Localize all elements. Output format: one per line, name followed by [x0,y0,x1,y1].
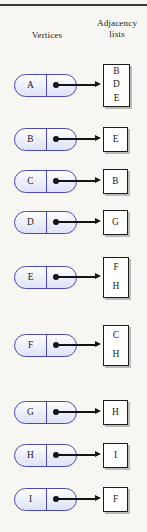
vertex-label: H [15,445,46,466]
vertex-cell-divider [46,335,47,356]
adjacency-list-item: F [113,494,118,505]
adjacency-list-box: BDE [103,64,130,107]
adjacency-list-item: G [112,217,119,228]
pointer-arrow-line [55,344,96,346]
adjacency-list-item: B [113,66,119,77]
adjacency-list-box: G [103,210,128,235]
pointer-arrow-line [55,84,96,86]
adjacency-header-line-2: lists [88,29,146,40]
pointer-arrow-head-icon [95,81,101,87]
adjacency-list-item: H [112,407,119,418]
pointer-arrow-line [55,138,96,140]
adjacency-list-box: F [103,487,128,512]
vertex-label: E [15,267,46,288]
adjacency-list-box: E [103,127,128,152]
pointer-arrow-line [55,498,96,500]
adjacency-list-box: FH [103,257,129,298]
pointer-arrow-head-icon [95,135,101,141]
pointer-arrow-line [55,411,96,413]
adjacency-list-item: E [114,93,120,104]
vertex-cell-divider [46,75,47,96]
pointer-arrow-head-icon [95,273,101,279]
vertices-column-header: Vertices [8,30,86,41]
adjacency-list-item: B [112,176,118,187]
vertex-cell-divider [46,171,47,192]
vertex-label: A [15,75,46,96]
adjacency-list-diagram: Vertices Adjacency lists ABDEBECBDGEFHFC… [0,0,147,532]
adjacency-header-line-1: Adjacency [88,18,146,29]
pointer-arrow-line [55,221,96,223]
pointer-arrow-head-icon [95,495,101,501]
pointer-arrow-head-icon [95,218,101,224]
vertex-label: I [15,489,46,510]
vertex-label: C [15,171,46,192]
adjacency-list-item: H [113,281,120,292]
adjacency-list-item: H [113,349,120,360]
pointer-arrow-head-icon [95,451,101,457]
pointer-arrow-head-icon [95,408,101,414]
adjacency-list-item: D [113,79,120,90]
adjacency-list-box: B [103,169,128,194]
adjacency-list-item: E [113,134,119,145]
adjacency-list-box: H [103,400,128,425]
adjacency-list-item: F [113,262,118,273]
pointer-arrow-line [55,180,96,182]
vertex-cell-divider [46,129,47,150]
adjacency-lists-column-header: Adjacency lists [88,18,146,40]
adjacency-list-item: I [114,450,117,461]
vertex-cell-divider [46,489,47,510]
pointer-arrow-line [55,276,96,278]
vertex-cell-divider [46,212,47,233]
vertex-label: B [15,129,46,150]
adjacency-list-box: I [103,443,128,468]
vertex-label: F [15,335,46,356]
vertex-label: G [15,402,46,423]
vertex-cell-divider [46,402,47,423]
vertex-cell-divider [46,267,47,288]
adjacency-list-item: C [113,330,119,341]
vertex-cell-divider [46,445,47,466]
pointer-arrow-head-icon [95,341,101,347]
adjacency-list-box: CH [103,325,129,366]
top-divider-rule [0,4,147,6]
pointer-arrow-line [55,454,96,456]
vertex-label: D [15,212,46,233]
pointer-arrow-head-icon [95,177,101,183]
